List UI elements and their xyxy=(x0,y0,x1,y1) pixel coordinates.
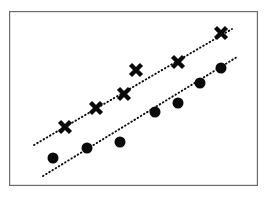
data-point-circle xyxy=(150,107,161,118)
plot-frame xyxy=(10,12,258,186)
data-point-circle xyxy=(48,153,59,164)
scatter-plot xyxy=(0,0,268,198)
data-point-circle xyxy=(195,78,206,89)
data-point-circle xyxy=(216,63,227,74)
data-point-circle xyxy=(173,98,184,109)
data-point-circle xyxy=(115,137,126,148)
figure-root: Scatter plot with two groups of data poi… xyxy=(0,0,268,198)
data-point-circle xyxy=(82,143,93,154)
